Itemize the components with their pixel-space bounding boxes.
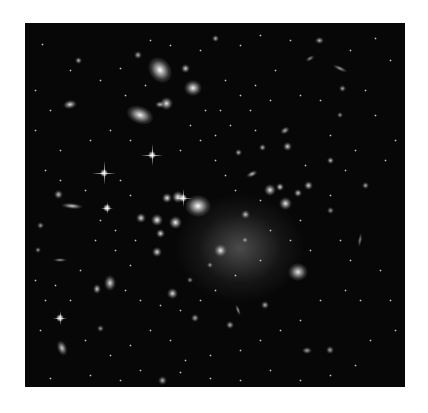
faint-galaxy xyxy=(259,339,262,342)
galaxy xyxy=(187,277,193,283)
faint-galaxy xyxy=(139,299,142,302)
faint-galaxy xyxy=(94,239,97,242)
faint-galaxy xyxy=(69,69,72,72)
galaxy xyxy=(155,101,165,108)
faint-galaxy xyxy=(374,37,377,40)
star xyxy=(100,169,108,177)
faint-galaxy xyxy=(44,169,47,172)
galaxy xyxy=(151,214,163,226)
faint-galaxy xyxy=(199,49,202,52)
faint-galaxy xyxy=(344,169,347,172)
faint-galaxy xyxy=(369,339,372,342)
faint-galaxy xyxy=(289,39,292,42)
faint-galaxy xyxy=(149,329,152,332)
galaxy xyxy=(294,189,302,197)
star xyxy=(148,151,156,159)
faint-galaxy xyxy=(139,369,142,372)
galaxy xyxy=(245,169,258,180)
faint-galaxy xyxy=(44,299,47,302)
faint-galaxy xyxy=(214,159,217,162)
faint-galaxy xyxy=(259,259,262,262)
faint-galaxy xyxy=(389,299,392,302)
galaxy xyxy=(158,376,167,385)
faint-galaxy xyxy=(239,94,242,97)
galaxy xyxy=(304,53,315,62)
galaxy xyxy=(241,210,250,219)
galaxy xyxy=(54,190,63,199)
galaxy xyxy=(104,275,116,291)
faint-galaxy xyxy=(39,329,42,332)
galaxy xyxy=(304,181,313,190)
faint-galaxy xyxy=(329,194,332,197)
faint-galaxy xyxy=(129,264,132,267)
faint-galaxy xyxy=(299,94,302,97)
faint-galaxy xyxy=(129,344,132,347)
galaxy xyxy=(259,144,266,151)
galaxy xyxy=(234,304,242,317)
faint-galaxy xyxy=(159,304,162,307)
faint-galaxy xyxy=(41,43,44,46)
faint-galaxy xyxy=(309,249,312,252)
faint-galaxy xyxy=(109,129,112,132)
faint-galaxy xyxy=(229,124,232,127)
galaxy xyxy=(261,301,269,309)
faint-galaxy xyxy=(269,229,272,232)
galaxy xyxy=(357,233,363,247)
faint-galaxy xyxy=(179,149,182,152)
galaxy xyxy=(35,247,41,253)
faint-galaxy xyxy=(34,129,37,132)
faint-galaxy xyxy=(119,179,122,182)
galaxy xyxy=(264,184,276,196)
galaxy xyxy=(315,37,324,44)
faint-galaxy xyxy=(49,377,52,380)
galaxy xyxy=(75,57,82,64)
galaxy-cluster-photo xyxy=(25,23,405,387)
faint-galaxy xyxy=(79,269,82,272)
galaxy xyxy=(162,193,172,203)
faint-galaxy xyxy=(119,67,122,70)
faint-galaxy xyxy=(299,379,302,382)
faint-galaxy xyxy=(319,299,322,302)
faint-galaxy xyxy=(169,44,172,47)
faint-galaxy xyxy=(99,219,102,222)
faint-galaxy xyxy=(354,364,357,367)
faint-galaxy xyxy=(239,44,242,47)
galaxy xyxy=(37,222,44,229)
faint-galaxy xyxy=(199,299,202,302)
faint-galaxy xyxy=(54,284,57,287)
faint-galaxy xyxy=(299,319,302,322)
faint-galaxy xyxy=(304,164,307,167)
galaxy xyxy=(97,325,104,332)
faint-galaxy xyxy=(129,194,132,197)
faint-galaxy xyxy=(89,139,92,142)
faint-galaxy xyxy=(84,189,87,192)
galaxy xyxy=(207,262,213,268)
faint-galaxy xyxy=(389,59,392,62)
faint-galaxy xyxy=(379,269,382,272)
galaxy xyxy=(327,207,334,214)
galaxy xyxy=(143,52,177,88)
faint-galaxy xyxy=(339,239,342,242)
galaxy xyxy=(339,85,346,92)
galaxy xyxy=(124,102,156,128)
faint-galaxy xyxy=(209,377,212,380)
faint-galaxy xyxy=(59,179,62,182)
faint-galaxy xyxy=(254,129,257,132)
faint-galaxy xyxy=(329,134,332,137)
faint-galaxy xyxy=(394,139,397,142)
faint-galaxy xyxy=(149,39,152,42)
faint-galaxy xyxy=(84,339,87,342)
galaxy xyxy=(226,321,234,329)
galaxy xyxy=(332,62,349,73)
galaxy xyxy=(62,98,77,109)
galaxy xyxy=(156,229,165,238)
faint-galaxy xyxy=(234,274,237,277)
galaxy xyxy=(283,142,292,151)
galaxy xyxy=(53,258,67,262)
galaxy xyxy=(279,197,292,210)
galaxy xyxy=(242,237,248,243)
faint-galaxy xyxy=(99,79,102,82)
faint-galaxy xyxy=(134,239,137,242)
faint-galaxy xyxy=(259,199,262,202)
galaxy xyxy=(181,64,190,73)
